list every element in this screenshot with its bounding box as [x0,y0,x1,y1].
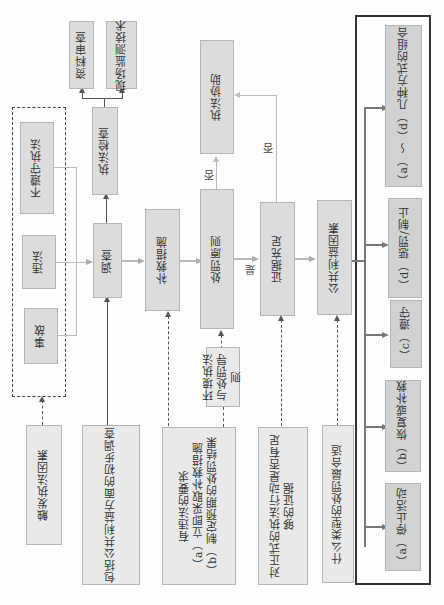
outcome-restore-remedy: （b）恢复或补救 [385,380,421,472]
box-document-review: 资料审查 [69,21,94,89]
outcome-combination: （a）～（d）几种方式的组合 [385,25,422,187]
box-accident: 事故 [24,308,58,364]
label-no-2: 否 [261,143,276,153]
outcome-stop-activity: （a）停止活动 [385,483,421,571]
box-evidence-note: 对正式的执法行动是否有足够的证据 [258,427,308,585]
box-noncompliance: 不遵守执法 [20,122,54,214]
box-initial-investigation: 包括公共利益方面的初步调查 [82,425,140,585]
label-no-1: 否 [202,170,217,180]
box-violation: 违法 [22,235,56,289]
label-yes: 是 [243,265,258,275]
box-enforcement-check: 执法检查 [92,107,118,195]
box-public-interest: 公共利益因素 [317,200,352,315]
box-penalty-principle: 处罚原则 [200,189,234,329]
box-remedial-measures: 补救措施 [145,209,180,311]
box-investigation: 调查 [93,223,122,298]
box-enforcement-assist: 执法协助 [200,40,234,154]
enforcement-flow-diagram: 不遵守执法 违法 事故 触发执法因素 包括公共利益方面的初步调查 调查 执法检查… [0,0,444,605]
box-guideline: 环境执法与处罚导则 [206,347,240,407]
box-evidence-sufficient: 证据充足 [260,202,295,316]
outcome-punish-deter: （d）惩罚/制止 [388,198,422,298]
box-site-monitoring: 现场监测技术 [106,21,137,89]
outcome-comply: （c）遵守 [390,300,422,368]
box-penalty-type-note: 什么类型的处罚最合适 [322,425,354,583]
box-trigger-factors: 触发执法因素 [26,425,62,545]
box-remedial-note: 有违法的要求 （a）立即采取补救措施 （b）制定预期的处罚结果 [162,427,236,585]
